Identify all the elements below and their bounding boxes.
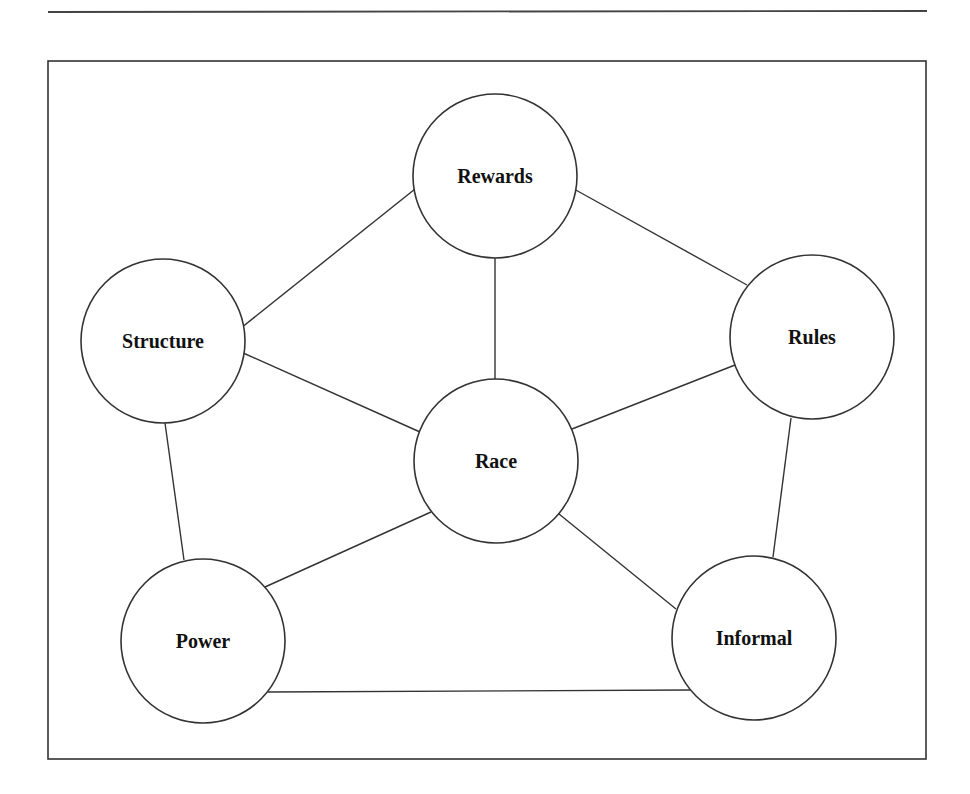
node-label: Informal	[716, 627, 793, 649]
edge-race-power	[265, 512, 431, 587]
node-informal: Informal	[672, 556, 836, 720]
edge-rules-informal	[773, 418, 791, 557]
edge-race-informal	[559, 514, 676, 609]
node-structure: Structure	[81, 259, 245, 423]
diagram-page: RewardsStructureRulesRacePowerInformal	[0, 0, 970, 794]
nodes-group: RewardsStructureRulesRacePowerInformal	[81, 94, 894, 723]
node-power: Power	[121, 559, 285, 723]
edge-power-informal	[268, 690, 690, 692]
edge-race-rules	[572, 365, 735, 429]
edge-structure-power	[165, 423, 184, 560]
node-rules: Rules	[730, 255, 894, 419]
node-label: Race	[475, 450, 517, 472]
node-race: Race	[414, 379, 578, 543]
node-label: Power	[176, 630, 231, 652]
edge-rewards-rules	[574, 189, 747, 285]
node-label: Rewards	[457, 165, 533, 187]
diagram-canvas: RewardsStructureRulesRacePowerInformal	[0, 0, 970, 794]
edge-structure-race	[241, 352, 420, 432]
node-label: Structure	[122, 330, 204, 352]
edge-structure-rewards	[241, 189, 415, 328]
node-rewards: Rewards	[413, 94, 577, 258]
top-rule-divider	[48, 11, 927, 12]
node-label: Rules	[788, 326, 836, 348]
